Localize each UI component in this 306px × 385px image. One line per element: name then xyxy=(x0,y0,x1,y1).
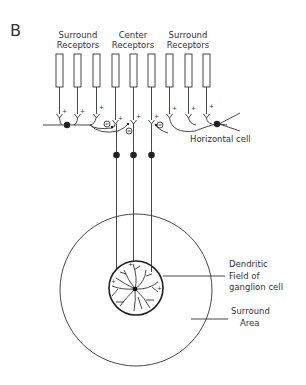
svg-text:+: + xyxy=(209,102,214,109)
surround-receptors-left-line2: Receptors xyxy=(57,40,100,50)
surround-area-label: Surround Area xyxy=(231,306,270,328)
horizontal-cell-label: Horizontal cell xyxy=(190,134,251,144)
receptor xyxy=(148,54,155,87)
synaptic-terminals xyxy=(57,114,210,124)
dendritic-plus-signs: + + + xyxy=(111,260,162,291)
receptor xyxy=(93,54,100,87)
bipolar-cell-body xyxy=(148,152,155,159)
svg-text:+: + xyxy=(111,277,116,284)
ganglion-cell-body xyxy=(133,287,138,292)
surround-receptors-left-line1: Surround xyxy=(59,30,98,40)
horizontal-cell-body-right xyxy=(214,121,220,127)
svg-text:+: + xyxy=(157,284,162,291)
dendritic-field-label: Dendritic Field of ganglion cell xyxy=(229,259,283,292)
surround-receptors-right-line1: Surround xyxy=(169,30,208,40)
receptor xyxy=(74,54,81,87)
svg-text:+: + xyxy=(154,112,159,119)
bipolar-cell-body xyxy=(113,152,120,159)
receptor xyxy=(203,54,210,87)
center-receptors-line2: Receptors xyxy=(112,40,155,50)
panel-label: B xyxy=(10,21,21,40)
horizontal-cells xyxy=(43,113,240,133)
svg-text:ganglion cell: ganglion cell xyxy=(229,282,283,292)
svg-text:Area: Area xyxy=(240,318,260,328)
receptor xyxy=(130,54,137,87)
svg-text:+: + xyxy=(118,114,123,121)
svg-text:+: + xyxy=(99,103,104,110)
svg-text:Dendritic: Dendritic xyxy=(229,259,268,269)
receptor xyxy=(56,54,63,87)
receptor xyxy=(166,54,173,87)
svg-text:+: + xyxy=(80,107,85,114)
horizontal-cell-right-process xyxy=(170,118,216,131)
svg-text:Surround: Surround xyxy=(231,306,270,316)
svg-text:+: + xyxy=(172,104,177,111)
receptor-group-labels: Surround Receptors Center Receptors Surr… xyxy=(57,30,210,50)
bipolar-axons xyxy=(117,124,152,272)
center-receptors-line1: Center xyxy=(119,30,148,40)
svg-text:+: + xyxy=(62,107,67,114)
svg-text:+: + xyxy=(191,104,196,111)
svg-text:Field of: Field of xyxy=(229,271,261,281)
surround-receptors-right-line2: Receptors xyxy=(167,40,210,50)
svg-text:+: + xyxy=(128,260,133,267)
horizontal-cell-body-left xyxy=(64,122,70,128)
receptor xyxy=(185,54,192,87)
svg-text:+: + xyxy=(136,112,141,119)
retina-receptive-field-diagram: B Surround Receptors Center Receptors Su… xyxy=(0,0,306,385)
receptor xyxy=(112,54,119,87)
bipolar-cell-body xyxy=(130,152,137,159)
plus-signs: + + + + + + + + + xyxy=(62,102,214,121)
